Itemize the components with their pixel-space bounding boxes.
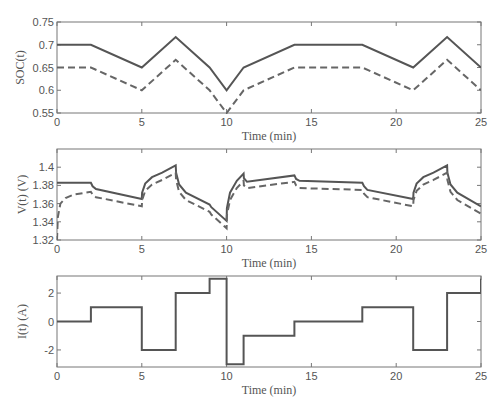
x-tick-label: 5 xyxy=(139,370,145,382)
x-tick-label: 5 xyxy=(139,116,145,128)
x-tick-label: 0 xyxy=(54,116,60,128)
x-tick-label: 15 xyxy=(305,116,317,128)
y-axis-label: V(t) (V) xyxy=(15,175,29,215)
current-subplot: 0510152025-202Time (min)I(t) (A) xyxy=(15,276,487,397)
x-tick-label: 0 xyxy=(54,243,60,255)
y-tick-label: 2 xyxy=(48,287,54,299)
y-axis-label: SOC(t) xyxy=(13,50,27,85)
series-dashed xyxy=(57,60,481,113)
soc-subplot: 05101520250.550.60.650.70.75Time (min)SO… xyxy=(13,16,487,143)
x-tick-label: 20 xyxy=(390,243,402,255)
x-tick-label: 10 xyxy=(220,116,232,128)
y-tick-label: 0.65 xyxy=(33,62,54,74)
axes-frame xyxy=(57,276,481,367)
y-axis-label: I(t) (A) xyxy=(15,304,29,339)
x-axis-label: Time (min) xyxy=(242,256,297,270)
x-tick-label: 15 xyxy=(305,370,317,382)
series-solid xyxy=(57,165,481,221)
y-tick-label: 0.55 xyxy=(33,107,54,119)
x-tick-label: 0 xyxy=(54,370,60,382)
x-tick-label: 20 xyxy=(390,116,402,128)
x-tick-label: 25 xyxy=(475,243,487,255)
x-tick-label: 10 xyxy=(220,243,232,255)
figure: 05101520250.550.60.650.70.75Time (min)SO… xyxy=(0,0,502,413)
y-tick-label: -2 xyxy=(44,344,54,356)
x-tick-label: 25 xyxy=(475,370,487,382)
x-axis-label: Time (min) xyxy=(242,129,297,143)
y-tick-label: 0 xyxy=(48,316,54,328)
y-tick-label: 0.6 xyxy=(39,84,54,96)
y-tick-label: 1.4 xyxy=(39,161,54,173)
y-tick-label: 1.36 xyxy=(33,198,54,210)
axes-frame xyxy=(57,22,481,113)
x-tick-label: 20 xyxy=(390,370,402,382)
y-tick-label: 0.75 xyxy=(33,16,54,28)
y-tick-label: 1.38 xyxy=(33,179,54,191)
series-current xyxy=(57,279,481,364)
y-tick-label: 0.7 xyxy=(39,39,54,51)
x-tick-label: 15 xyxy=(305,243,317,255)
x-tick-label: 5 xyxy=(139,243,145,255)
x-tick-label: 10 xyxy=(220,370,232,382)
x-axis-label: Time (min) xyxy=(242,383,297,397)
voltage-subplot: 05101520251.321.341.361.381.4Time (min)V… xyxy=(15,149,487,270)
series-solid xyxy=(57,37,481,90)
y-tick-label: 1.32 xyxy=(33,234,54,246)
x-tick-label: 25 xyxy=(475,116,487,128)
y-tick-label: 1.34 xyxy=(33,216,54,228)
